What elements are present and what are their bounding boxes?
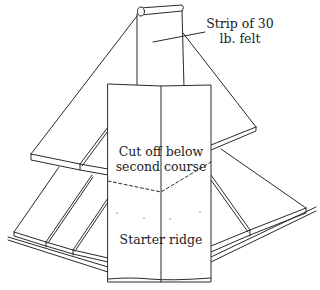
cutoff-label-line2: second course (111, 159, 211, 174)
cutoff-label-line1: Cut off below (111, 144, 211, 159)
lower-course-right (211, 149, 316, 262)
felt-leader-line (153, 32, 205, 42)
felt-strip (137, 5, 184, 87)
starter-ridge-panel (108, 84, 211, 282)
felt-strip-label-line2: lb. felt (205, 31, 275, 46)
felt-strip-label-line1: Strip of 30 (205, 16, 275, 31)
roof-ridge-diagram: Strip of 30 lb. felt Cut off below secon… (0, 0, 320, 290)
lower-course-left (8, 167, 108, 272)
felt-strip-label: Strip of 30 lb. felt (205, 16, 275, 46)
cutoff-label: Cut off below second course (111, 144, 211, 174)
starter-ridge-label: Starter ridge (111, 232, 211, 247)
